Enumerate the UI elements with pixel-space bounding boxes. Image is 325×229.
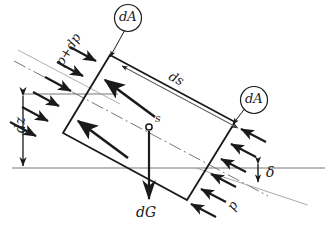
- centroid-point: [146, 124, 152, 130]
- label-dg: dG: [136, 205, 156, 219]
- label-delta-angle: δ: [266, 165, 274, 179]
- da-top-leader: [110, 28, 126, 57]
- interior-force-arrow-lower: [78, 121, 128, 158]
- label-centroid: s: [155, 113, 161, 124]
- label-da-top: dA: [119, 10, 137, 23]
- label-da-right: dA: [245, 92, 263, 105]
- hydrostatic-element-diagram: dA dA ds dz p+dp p dG s δ: [0, 0, 325, 229]
- interior-force-arrow-upper: [105, 80, 155, 117]
- label-dz: dz: [13, 117, 27, 133]
- pressure-guide-line-lower: [193, 168, 310, 205]
- diagram-canvas: [0, 0, 325, 229]
